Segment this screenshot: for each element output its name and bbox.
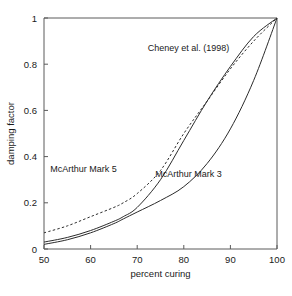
y-axis-title: damping factor — [5, 102, 16, 165]
y-tick-label: 0.2 — [24, 197, 37, 208]
y-tick-label: 0.8 — [24, 59, 37, 70]
chart-figure: 5060708090100 00.20.40.60.81 percent cur… — [0, 0, 292, 296]
y-tick-label: 0 — [32, 244, 37, 255]
y-tick-label: 1 — [32, 13, 37, 24]
damping-factor-chart: 5060708090100 00.20.40.60.81 percent cur… — [0, 0, 292, 296]
annotation-mcarthur-mark-5: McArthur Mark 5 — [50, 164, 117, 174]
y-tick-label: 0.6 — [24, 105, 37, 116]
x-tick-label: 90 — [225, 254, 236, 265]
x-tick-label: 50 — [39, 254, 50, 265]
x-tick-label: 100 — [269, 254, 285, 265]
annotation-cheney-et-al-1998: Cheney et al. (1998) — [148, 43, 230, 53]
x-axis-title: percent curing — [130, 268, 190, 279]
x-tick-label: 70 — [132, 254, 143, 265]
x-tick-label: 60 — [85, 254, 96, 265]
x-tick-label: 80 — [179, 254, 190, 265]
y-tick-label: 0.4 — [24, 151, 37, 162]
annotation-mcarthur-mark-3: McArthur Mark 3 — [155, 169, 222, 179]
